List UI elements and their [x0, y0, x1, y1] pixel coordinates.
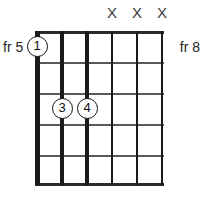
string-line-4	[111, 31, 113, 185]
fret-line	[35, 62, 164, 64]
muted-string-marker: X	[105, 4, 119, 22]
muted-strings-row: XXX	[0, 4, 203, 22]
nut-line	[35, 31, 164, 34]
guitar-chord-diagram: fr 5 fr 8 XXX 134	[0, 0, 203, 199]
fret-position-label-right: fr 8	[180, 40, 200, 54]
string-line-6	[161, 31, 162, 185]
fretboard-grid: 134	[37, 31, 162, 185]
fret-line	[35, 183, 164, 186]
fret-position-label-left: fr 5	[3, 40, 23, 54]
finger-marker-1: 1	[27, 36, 48, 57]
muted-string-marker: X	[155, 4, 169, 22]
fret-line	[35, 124, 164, 126]
muted-string-marker: X	[130, 4, 144, 22]
string-line-5	[136, 31, 138, 185]
fret-line	[35, 155, 164, 157]
finger-marker-4: 4	[77, 98, 98, 119]
finger-marker-3: 3	[52, 98, 73, 119]
fret-line	[35, 93, 164, 95]
